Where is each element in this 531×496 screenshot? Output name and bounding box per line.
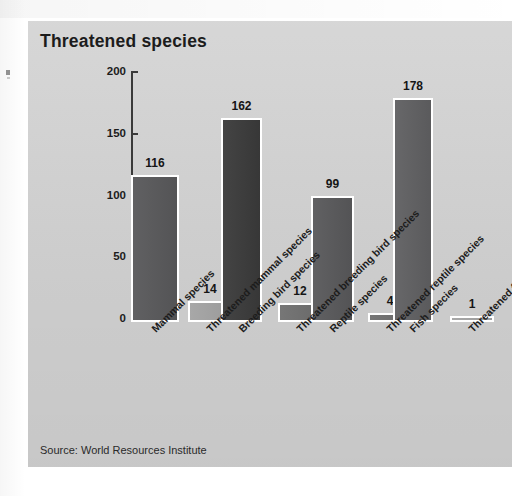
category-labels: Mammal speciesThreatened mammal speciesB… [28, 21, 512, 467]
page-canvas: Threatened species 200 150 100 50 0 [0, 0, 531, 496]
category-label-7: Threatened fish species [466, 241, 515, 334]
category-label-5: Threatened reptile species [384, 232, 486, 334]
plot-area: 200 150 100 50 0 11614162129941781 Mamma… [28, 21, 512, 467]
paper-texture-top [0, 0, 531, 18]
paper-speck [6, 70, 10, 75]
paper-speck [7, 77, 10, 79]
category-label-4: Reptile species [327, 272, 390, 335]
paper-texture-left [0, 0, 25, 496]
chart-panel: Threatened species 200 150 100 50 0 [25, 18, 515, 470]
source-note: Source: World Resources Institute [40, 444, 207, 456]
